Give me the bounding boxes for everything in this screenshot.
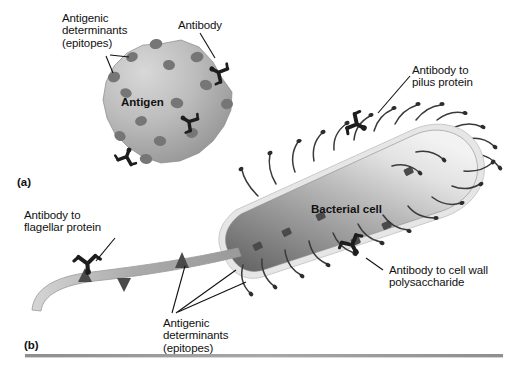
flagellum-epitope-leader-lines <box>172 266 246 313</box>
label-antibody-pilus-protein: Antibody to pilus protein <box>412 64 473 89</box>
flagellum-epitope-down-1 <box>117 278 131 292</box>
panel-tag-b: (b) <box>24 339 39 351</box>
immunology-figure: Antigenic determinants (epitopes) Antibo… <box>0 0 513 372</box>
label-antibody-top: Antibody <box>178 19 222 31</box>
label-antigenic-determinants-top: Antigenic determinants (epitopes) <box>62 12 127 49</box>
flagellum <box>32 248 241 311</box>
label-bacterial-cell: Bacterial cell <box>311 203 382 215</box>
antibody-cellwall-leader-line <box>366 258 383 270</box>
label-antigenic-determinants-bottom: Antigenic determinants (epitopes) <box>163 317 228 354</box>
label-antibody-flagellar-protein: Antibody to flagellar protein <box>24 209 101 234</box>
panel-tag-a: (a) <box>17 176 31 188</box>
bottom-divider <box>25 354 503 357</box>
label-antigen: Antigen <box>121 96 164 108</box>
antibody-flagellar-leader-line <box>96 238 115 261</box>
figure-graphics <box>0 0 513 372</box>
antibody-pilus-protein <box>345 110 373 141</box>
flagellum-group <box>32 238 246 313</box>
label-antibody-cell-wall-polysaccharide: Antibody to cell wall polysaccharide <box>389 264 488 289</box>
